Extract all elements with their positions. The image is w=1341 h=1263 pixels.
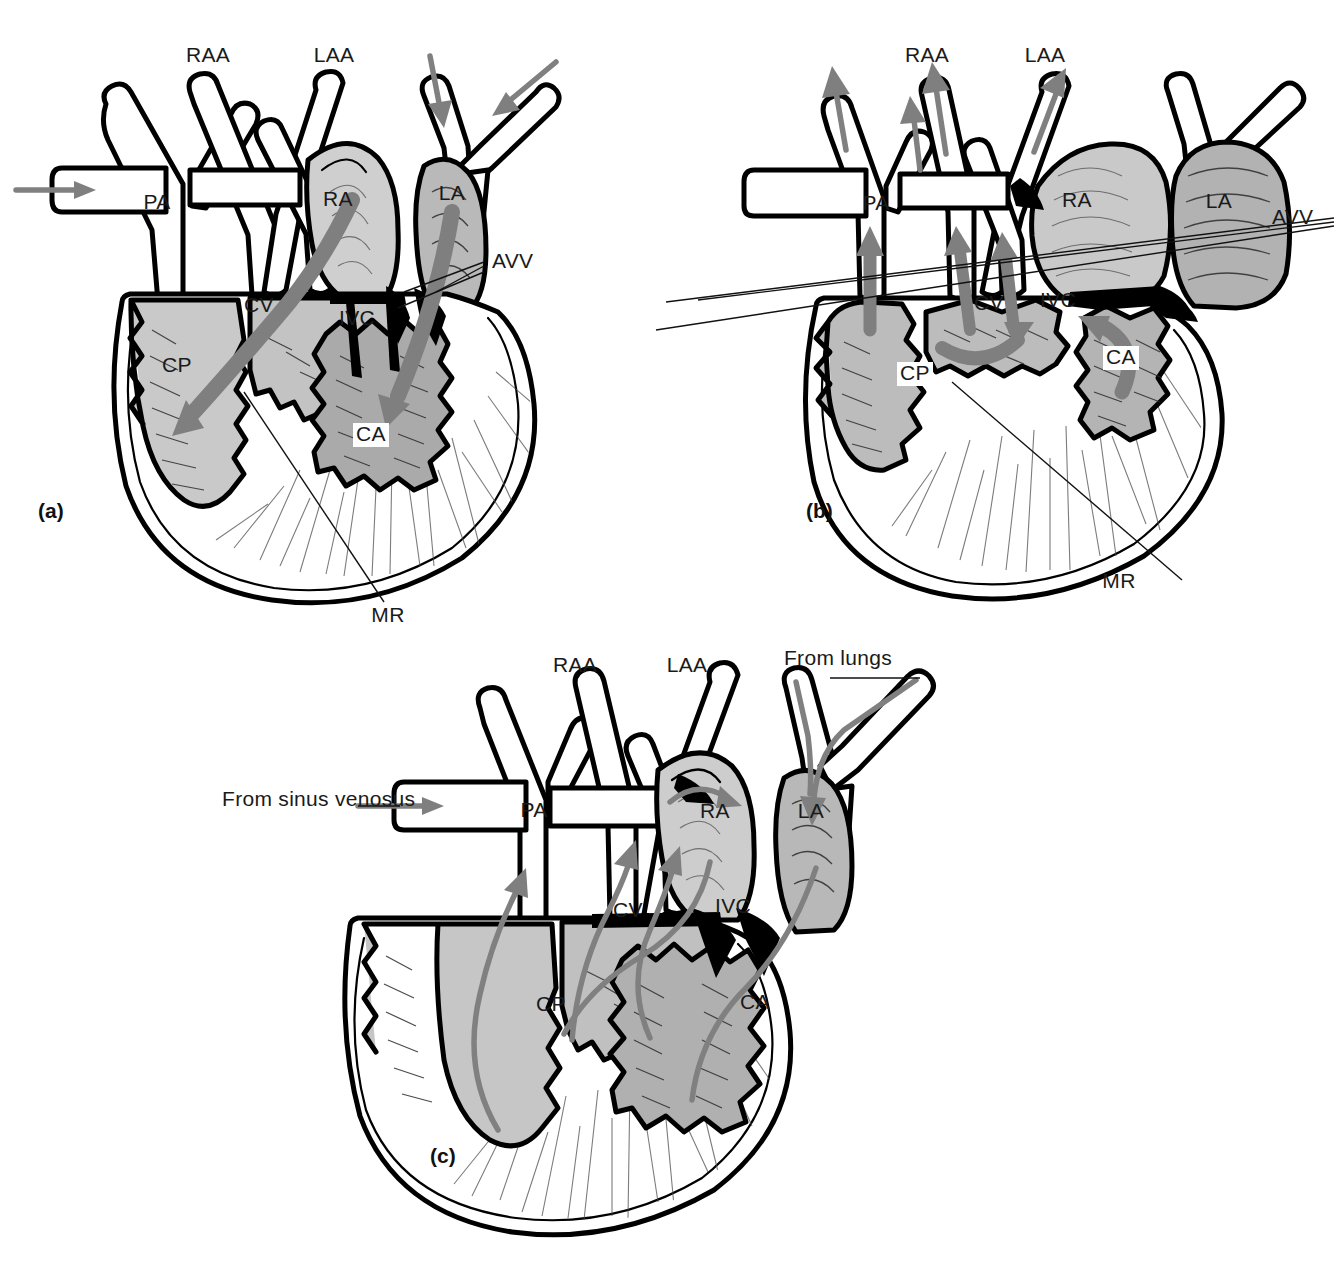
label-cp: CP (536, 992, 566, 1015)
label-ca: CA (740, 990, 770, 1013)
label-ra: RA (700, 799, 730, 822)
label-ivc: IVC (339, 306, 375, 329)
label-ivc: IVC (715, 894, 751, 917)
label-avv: AVV (1272, 205, 1313, 228)
right-atrium (307, 143, 399, 300)
label-avv: AVV (492, 249, 533, 272)
label-cv: CV (613, 898, 643, 921)
label-laa: LAA (1025, 43, 1066, 66)
label-ca: CA (356, 422, 386, 445)
label-cv: CV (974, 291, 1004, 314)
label-laa: LAA (667, 653, 708, 676)
label-laa: LAA (314, 43, 355, 66)
label-cp: CP (900, 361, 930, 384)
label-la: LA (439, 181, 465, 204)
panel-tag-b: (b) (806, 499, 833, 522)
label-ra: RA (323, 187, 353, 210)
label-ca: CA (1106, 345, 1136, 368)
label-mr: MR (371, 603, 404, 626)
label-la: LA (798, 799, 824, 822)
label-raa: RAA (553, 653, 597, 676)
label-raa: RAA (905, 43, 949, 66)
panel-tag-a: (a) (38, 499, 64, 522)
right-atrium (1032, 144, 1171, 302)
label-from-lungs: From lungs (784, 646, 892, 669)
label-cp: CP (162, 353, 192, 376)
label-pa: PA (862, 191, 889, 214)
label-pa: PA (520, 798, 547, 821)
label-raa: RAA (186, 43, 230, 66)
label-la: LA (1206, 189, 1232, 212)
panel-a: RAALAAPARALAAVVCVIVCCPCAMR (a) (0, 0, 670, 640)
label-from-sinus-venosus: From sinus venosus (222, 787, 415, 810)
panel-b: RAALAAPARALAAVVCVIVCCPCAMR (b) (670, 0, 1341, 640)
label-mr: MR (1102, 569, 1135, 592)
label-ivc: IVC (1040, 288, 1076, 311)
label-pa: PA (143, 190, 170, 213)
cavum-arteriosum (610, 944, 764, 1132)
panel-c: RAALAAFrom lungsFrom sinus venosusPARALA… (180, 640, 1040, 1263)
label-ra: RA (1062, 188, 1092, 211)
label-cv: CV (244, 293, 274, 316)
panel-tag-c: (c) (430, 1144, 456, 1167)
heart-blood-flow-figure: RAALAAPARALAAVVCVIVCCPCAMR (a) (0, 0, 1341, 1263)
